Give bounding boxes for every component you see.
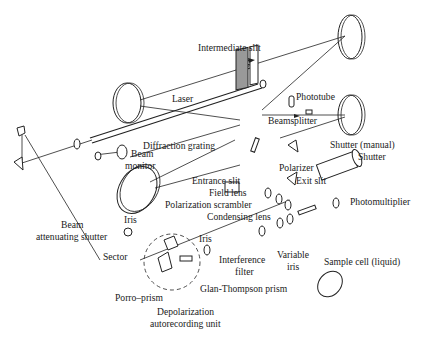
label-interference-filter-1: Interference xyxy=(219,254,265,265)
shutter xyxy=(288,140,298,152)
label-interference-filter-2: filter xyxy=(235,266,254,277)
label-glan-thompson: Glan-Thompson prism xyxy=(200,283,287,294)
label-variable-iris-2: iris xyxy=(287,261,299,272)
label-intermediate-slit: Intermediate slit xyxy=(198,42,261,53)
label-field-lens: Field lens xyxy=(209,187,247,198)
sample-mirror xyxy=(313,266,348,302)
label-phototube: Phototube xyxy=(296,91,335,102)
label-beam-monitor-2: monitor xyxy=(125,160,155,171)
label-laser: Laser xyxy=(172,93,193,104)
label-photomultiplier: Photomultiplier xyxy=(350,196,410,207)
label-porro-prism: Porro–prism xyxy=(115,292,163,303)
prism-top-left xyxy=(17,126,25,136)
label-sector: Sector xyxy=(103,251,128,262)
exit-slit-mirror xyxy=(251,138,260,153)
label-sample-cell: Sample cell (liquid) xyxy=(324,256,400,267)
label-iris-left: Iris xyxy=(124,214,137,225)
label-depolarization-1: Depolarization xyxy=(157,306,214,317)
label-beam-attenuating-2: attenuating shutter xyxy=(36,231,107,242)
label-polarization-scrambler: Polarization scrambler xyxy=(165,199,252,210)
label-shutter: Shutter xyxy=(358,151,386,162)
label-beamsplitter: Beamsplitter xyxy=(268,115,317,126)
label-shutter-manual: Shutter (manual) xyxy=(330,139,395,150)
label-polarizer: Polarizer xyxy=(279,162,314,173)
depolarization-unit xyxy=(144,234,200,290)
iris-left xyxy=(124,228,132,236)
label-condensing-lens: Condensing lens xyxy=(207,211,271,222)
prism-bottom-left xyxy=(14,157,23,170)
label-beam-attenuating-1: Beam xyxy=(61,219,83,230)
label-exit-slit: Exit slit xyxy=(296,175,326,186)
label-depolarization-2: autorecording unit xyxy=(150,318,221,329)
sample-cell xyxy=(298,205,316,215)
beam-monitor xyxy=(117,145,127,159)
phototube xyxy=(289,96,294,107)
label-variable-iris-1: Variable xyxy=(277,249,309,260)
beamsplitter xyxy=(306,110,312,114)
label-iris-center: Iris xyxy=(199,233,212,244)
label-entrance-slit: Entrance slit xyxy=(192,175,240,186)
collimating-mirror-top-left xyxy=(113,83,144,123)
label-diffraction-grating: Diffraction grating xyxy=(143,140,215,151)
